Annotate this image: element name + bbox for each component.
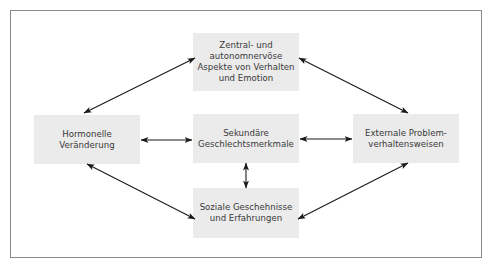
node-hormonal-change: Hormonelle Veränderung bbox=[34, 115, 140, 164]
node-central-autonomic-nervous-aspects: Zentral- und autonomnervöse Aspekte von … bbox=[193, 33, 299, 91]
node-label: Externale Problem- verhaltensweisen bbox=[365, 128, 447, 150]
node-label: Hormonelle Veränderung bbox=[59, 129, 114, 151]
node-secondary-sex-characteristics: Sekundäre Geschlechtsmerkmale bbox=[193, 114, 299, 163]
node-social-events-experiences: Soziale Geschehnisse und Erfahrungen bbox=[193, 188, 299, 238]
node-external-problem-behaviors: Externale Problem- verhaltensweisen bbox=[353, 114, 459, 163]
node-label: Zentral- und autonomnervöse Aspekte von … bbox=[197, 40, 294, 84]
node-label: Soziale Geschehnisse und Erfahrungen bbox=[200, 202, 293, 224]
node-label: Sekundäre Geschlechtsmerkmale bbox=[198, 128, 294, 150]
